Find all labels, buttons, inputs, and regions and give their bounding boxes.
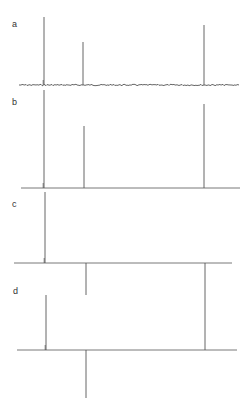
panel-label-d: d xyxy=(13,287,18,296)
panel-label-a: a xyxy=(12,20,17,29)
spectra-plot xyxy=(0,0,251,416)
spectrum-c xyxy=(14,192,232,310)
stacked-spectra-figure: a b c d xyxy=(0,0,251,416)
spectrum-a xyxy=(19,17,239,86)
baseline xyxy=(19,84,239,85)
panel-label-b: b xyxy=(12,98,17,107)
spectrum-b xyxy=(21,90,240,188)
panel-label-c: c xyxy=(12,200,17,209)
spectrum-d xyxy=(17,295,237,398)
